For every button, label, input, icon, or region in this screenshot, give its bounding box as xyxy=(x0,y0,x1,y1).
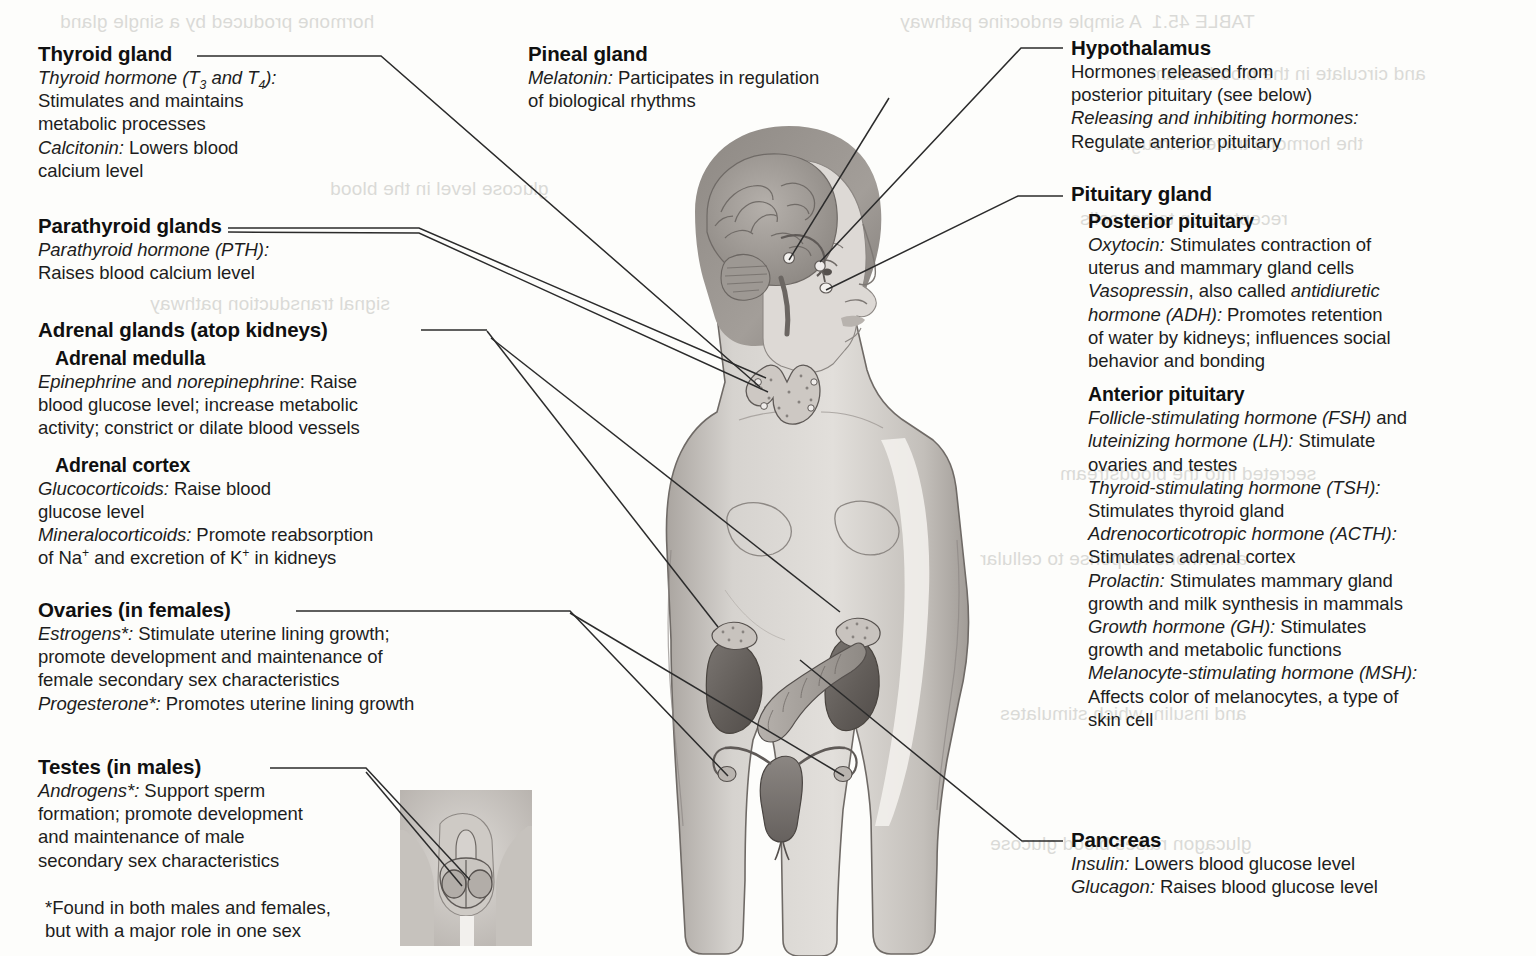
label-thyroid-gland: Thyroid gland Thyroid hormone (T3 and T4… xyxy=(38,42,378,182)
anterior-pituitary-body: Follicle-stimulating hormone (FSH) and l… xyxy=(1088,406,1531,731)
pituitary-heading: Pituitary gland xyxy=(1071,182,1531,206)
hypothalamus-heading: Hypothalamus xyxy=(1071,36,1521,60)
adrenal-cortex-body: Glucocorticoids: Raise blood glucose lev… xyxy=(38,477,488,570)
label-pituitary-gland: Pituitary gland Posterior pituitary Oxyt… xyxy=(1071,182,1531,731)
pancreas-body: Insulin: Lowers blood glucose level Gluc… xyxy=(1071,852,1521,898)
label-hypothalamus: Hypothalamus Hormones released from post… xyxy=(1071,36,1521,153)
footnote: *Found in both males and females, but wi… xyxy=(45,896,395,942)
adrenal-medulla-body: Epinephrine and norepinephrine: Raise bl… xyxy=(38,370,488,440)
ovaries-heading: Ovaries (in females) xyxy=(38,598,518,622)
testes-heading: Testes (in males) xyxy=(38,755,368,779)
hypothalamus-body: Hormones released from posterior pituita… xyxy=(1071,60,1521,153)
adrenal-heading: Adrenal glands (atop kidneys) xyxy=(38,318,488,342)
pancreas-heading: Pancreas xyxy=(1071,828,1521,852)
parathyroid-body: Parathyroid hormone (PTH): Raises blood … xyxy=(38,238,378,284)
footnote-line-2: but with a major role in one sex xyxy=(45,919,395,942)
label-adrenal-glands: Adrenal glands (atop kidneys) Adrenal me… xyxy=(38,318,488,569)
label-parathyroid-glands: Parathyroid glands Parathyroid hormone (… xyxy=(38,214,378,284)
label-ovaries: Ovaries (in females) Estrogens*: Stimula… xyxy=(38,598,518,715)
posterior-pituitary-heading: Posterior pituitary xyxy=(1088,209,1531,233)
adrenal-medulla-heading: Adrenal medulla xyxy=(55,346,488,370)
label-testes: Testes (in males) Androgens*: Support sp… xyxy=(38,755,368,872)
label-pineal-gland: Pineal gland Melatonin: Participates in … xyxy=(528,42,918,112)
thyroid-body: Thyroid hormone (T3 and T4): Stimulates … xyxy=(38,66,378,182)
pineal-body: Melatonin: Participates in regulation of… xyxy=(528,66,918,112)
adrenal-cortex-heading: Adrenal cortex xyxy=(55,453,488,477)
testis-left-organ xyxy=(442,870,466,898)
kidney-left-organ xyxy=(706,642,762,734)
testes-inset-illustration xyxy=(400,790,532,946)
anterior-pituitary-heading: Anterior pituitary xyxy=(1088,382,1531,406)
label-pancreas: Pancreas Insulin: Lowers blood glucose l… xyxy=(1071,828,1521,898)
ovary-right-organ xyxy=(834,767,852,782)
hypothalamus-organ xyxy=(815,261,825,271)
ghost-text: TABLE 45.1 A simple endocrine pathway xyxy=(900,8,1255,35)
testis-right-organ xyxy=(468,870,492,898)
pineal-heading: Pineal gland xyxy=(528,42,918,66)
human-body-illustration xyxy=(575,120,995,956)
endocrine-system-diagram: hormone produced by a single gland TABLE… xyxy=(0,0,1536,956)
testes-body: Androgens*: Support sperm formation; pro… xyxy=(38,779,368,872)
ovaries-body: Estrogens*: Stimulate uterine lining gro… xyxy=(38,622,518,715)
footnote-line-1: *Found in both males and females, xyxy=(45,896,395,919)
ghost-text: signal transduction pathway xyxy=(150,290,390,317)
pituitary-gland-organ xyxy=(820,283,832,293)
parathyroid-heading: Parathyroid glands xyxy=(38,214,378,238)
thyroid-heading: Thyroid gland xyxy=(38,42,378,66)
ghost-text: hormone produced by a single gland xyxy=(60,8,374,35)
pineal-gland-organ xyxy=(784,253,795,264)
ovary-left-organ xyxy=(718,767,736,782)
posterior-pituitary-body: Oxytocin: Stimulates contraction of uter… xyxy=(1088,233,1531,372)
